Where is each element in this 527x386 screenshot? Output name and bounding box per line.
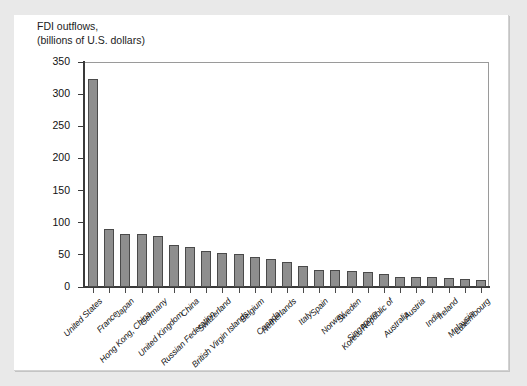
y-axis-tick-mark (78, 190, 84, 191)
x-axis-tick-mark (400, 288, 401, 293)
y-axis-tick-mark (78, 287, 84, 288)
x-axis-tick-mark (368, 288, 369, 293)
bar (201, 251, 211, 287)
y-axis-tick-mark (78, 126, 84, 127)
x-axis-tick-mark (319, 288, 320, 293)
chart-title-block: FDI outflows, (billions of U.S. dollars) (37, 20, 145, 47)
y-axis-tick-label: 150 (52, 184, 70, 196)
bar (88, 79, 98, 287)
x-axis-tick-mark (481, 288, 482, 293)
bar (217, 253, 227, 287)
y-axis-tick-mark (78, 254, 84, 255)
y-axis-tick-label: 350 (52, 55, 70, 67)
bar (185, 247, 195, 288)
bar (234, 254, 244, 287)
bar (169, 245, 179, 287)
x-axis-tick-label: Japan (113, 296, 136, 319)
bar (363, 272, 373, 287)
y-axis-tick-label: 250 (52, 119, 70, 131)
x-axis-tick-mark (174, 288, 175, 293)
y-axis-tick-label: 300 (52, 87, 70, 99)
x-axis-tick-mark (255, 288, 256, 293)
chart-panel: FDI outflows, (billions of U.S. dollars)… (14, 15, 509, 371)
bar (427, 277, 437, 287)
bar (282, 262, 292, 287)
x-axis-tick-mark (93, 288, 94, 293)
x-axis-tick-mark (206, 288, 207, 293)
x-axis-tick-mark (449, 288, 450, 293)
y-axis-tick-label: 200 (52, 151, 70, 163)
x-axis-tick-label: Spain (308, 296, 330, 318)
bar (347, 271, 357, 287)
x-axis-tick-mark (384, 288, 385, 293)
x-axis-tick-mark (142, 288, 143, 293)
y-axis-tick-label: 50 (58, 248, 70, 260)
y-axis-tick-label: 0 (64, 280, 70, 292)
x-axis-tick-mark (125, 288, 126, 293)
y-axis-tick-mark (78, 94, 84, 95)
x-axis-tick-mark (190, 288, 191, 293)
x-axis-tick-mark (432, 288, 433, 293)
bar (411, 277, 421, 287)
y-axis-tick-label: 100 (52, 216, 70, 228)
x-axis-tick-mark (109, 288, 110, 293)
y-axis-tick-mark (78, 62, 84, 63)
x-axis-tick-mark (287, 288, 288, 293)
bar (330, 270, 340, 287)
x-axis-tick-mark (158, 288, 159, 293)
bar (266, 259, 276, 287)
x-axis-tick-mark (222, 288, 223, 293)
x-axis-tick-mark (271, 288, 272, 293)
x-axis-tick-mark (352, 288, 353, 293)
y-axis-tick-mark (78, 222, 84, 223)
bar (250, 257, 260, 287)
x-axis-tick-mark (303, 288, 304, 293)
x-axis-tick-mark (465, 288, 466, 293)
x-axis-tick-label: Austria (402, 296, 427, 321)
bar (137, 234, 147, 287)
chart-title: FDI outflows, (37, 20, 145, 34)
x-axis-tick-mark (239, 288, 240, 293)
bar (298, 266, 308, 287)
x-axis-tick-label: Ireland (435, 296, 460, 321)
bar (314, 270, 324, 287)
x-axis-tick-mark (416, 288, 417, 293)
x-axis-tick-mark (335, 288, 336, 293)
x-axis-tick-label: China (178, 296, 201, 319)
chart-subtitle: (billions of U.S. dollars) (37, 34, 145, 48)
bar (460, 279, 470, 287)
bar (104, 229, 114, 288)
x-axis-tick-label: United States (62, 296, 105, 339)
bars-container (85, 62, 489, 287)
bar (444, 278, 454, 287)
bar (379, 274, 389, 288)
bar (153, 236, 163, 287)
bar (476, 280, 486, 287)
y-axis-tick-mark (78, 158, 84, 159)
bar (395, 277, 405, 287)
bar (120, 234, 130, 287)
